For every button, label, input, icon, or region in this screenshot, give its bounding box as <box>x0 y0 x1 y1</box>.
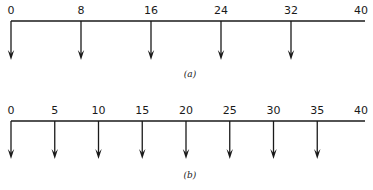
tick-label: 40 <box>354 4 368 17</box>
down-arrow-icon <box>227 121 233 159</box>
tick-label: 25 <box>223 104 237 117</box>
down-arrow-icon <box>218 21 224 60</box>
diagram-caption: (b) <box>184 170 197 180</box>
down-arrow-icon <box>139 121 145 159</box>
tick-label: 32 <box>284 4 298 17</box>
diagram-a: 0816243240(a) <box>8 4 369 79</box>
down-arrow-icon <box>52 121 58 159</box>
tick-label: 8 <box>78 4 85 17</box>
tick-label: 40 <box>354 104 368 117</box>
down-arrow-icon <box>183 121 189 159</box>
down-arrow-icon <box>148 21 154 60</box>
tick-label: 30 <box>267 104 281 117</box>
tick-label: 10 <box>92 104 106 117</box>
tick-label: 0 <box>8 104 15 117</box>
diagram-b: 0510152025303540(b) <box>8 104 369 180</box>
diagram-canvas: 0816243240(a) 0510152025303540(b) <box>0 0 373 190</box>
tick-label: 15 <box>135 104 149 117</box>
down-arrow-icon <box>314 121 320 159</box>
tick-label: 20 <box>179 104 193 117</box>
down-arrow-icon <box>78 21 84 60</box>
tick-label: 0 <box>8 4 15 17</box>
down-arrow-icon <box>288 21 294 60</box>
down-arrow-icon <box>8 121 14 159</box>
tick-label: 5 <box>51 104 58 117</box>
down-arrow-icon <box>95 121 101 159</box>
tick-label: 35 <box>310 104 324 117</box>
down-arrow-icon <box>8 21 14 60</box>
down-arrow-icon <box>270 121 276 159</box>
tick-label: 16 <box>144 4 158 17</box>
diagram-caption: (a) <box>184 69 197 79</box>
tick-label: 24 <box>214 4 228 17</box>
